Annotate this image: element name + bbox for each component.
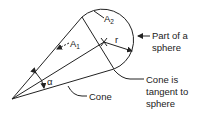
cone-base-chord [82,17,114,69]
label-alpha: α [47,76,53,87]
label-tangent-2: tangent to [146,86,188,97]
label-part-of-sphere-2: sphere [152,42,181,53]
label-cone: Cone [89,91,112,102]
label-a1: A1 [70,38,80,50]
label-tangent-1: Cone is [146,74,178,85]
cone-callout-leader [68,86,87,96]
tangent-callout-leader [114,70,144,79]
cone-sphere-diagram: r A2 A1 α Part of a sphere Cone is tange… [0,0,211,116]
a2-leader [94,11,104,18]
label-part-of-sphere-1: Part of a [152,30,189,41]
label-tangent-3: sphere [146,98,175,109]
label-a2: A2 [104,13,114,25]
label-r: r [115,34,118,45]
